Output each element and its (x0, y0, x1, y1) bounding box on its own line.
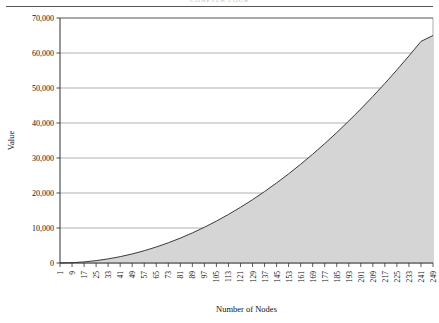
y-tick-label: 10,000 (32, 224, 54, 233)
x-tick-label: 41 (116, 271, 125, 279)
x-tick-label: 17 (80, 271, 89, 279)
y-tick-label: 50,000 (32, 84, 54, 93)
x-tick-label: 145 (273, 271, 282, 283)
x-tick-label: 81 (176, 271, 185, 279)
area-chart: 010,00020,00030,00040,00050,00060,00070,… (0, 0, 439, 323)
x-tick-label: 129 (249, 271, 258, 283)
x-tick-label: 121 (236, 271, 245, 283)
x-tick-label: 33 (104, 271, 113, 279)
y-tick-labels-group: 010,00020,00030,00040,00050,00060,00070,… (32, 14, 60, 268)
x-tick-label: 1 (56, 271, 65, 275)
y-tick-label: 60,000 (32, 49, 54, 58)
x-tick-label: 137 (261, 271, 270, 283)
y-axis-title: Value (6, 131, 16, 151)
x-axis-title: Number of Nodes (216, 304, 277, 314)
x-tick-label: 49 (128, 271, 137, 279)
y-tick-label: 40,000 (32, 119, 54, 128)
x-tick-label: 97 (200, 271, 209, 279)
x-tick-label: 161 (297, 271, 306, 283)
x-tick-label: 185 (333, 271, 342, 283)
area-series-group (60, 36, 433, 264)
x-tick-label: 177 (321, 271, 330, 283)
x-tick-label: 225 (393, 271, 402, 283)
x-tick-label: 241 (417, 271, 426, 283)
x-tick-label: 209 (369, 271, 378, 283)
y-tick-label: 20,000 (32, 189, 54, 198)
x-tick-labels-group: 1917253341495765738189971051131211291371… (56, 263, 438, 282)
x-tick-label: 233 (405, 271, 414, 283)
x-tick-label: 25 (92, 271, 101, 279)
x-tick-label: 217 (381, 271, 390, 283)
y-tick-label: 70,000 (32, 14, 54, 23)
x-tick-label: 249 (429, 271, 438, 283)
x-tick-label: 65 (152, 271, 161, 279)
x-tick-label: 57 (140, 271, 149, 279)
x-tick-label: 9 (68, 271, 77, 275)
x-tick-label: 113 (224, 271, 233, 282)
chart-figure: CHAPTER FOUR 010,00020,00030,00040,00050… (0, 0, 439, 323)
y-tick-label: 0 (50, 259, 54, 268)
y-tick-label: 30,000 (32, 154, 54, 163)
x-tick-label: 105 (212, 271, 221, 283)
x-tick-label: 169 (309, 271, 318, 283)
x-tick-label: 193 (345, 271, 354, 283)
area-fill (60, 36, 433, 264)
x-tick-label: 89 (188, 271, 197, 279)
x-tick-label: 201 (357, 271, 366, 283)
x-tick-label: 73 (164, 271, 173, 279)
x-tick-label: 153 (285, 271, 294, 283)
